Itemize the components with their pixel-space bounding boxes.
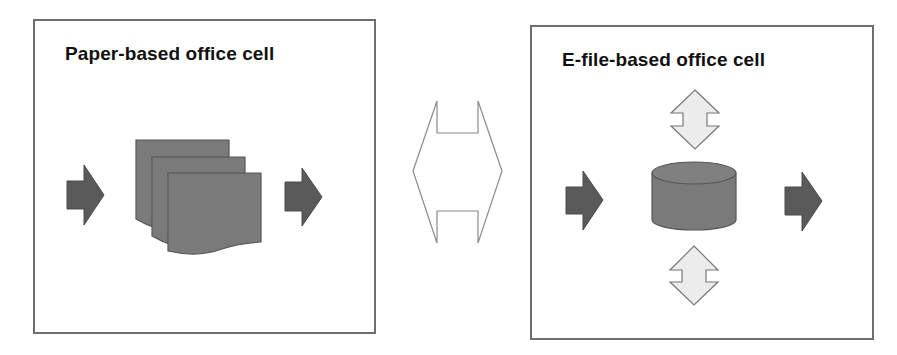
bidirectional-connector-arrow-icon [413, 101, 502, 243]
bottom-bidirectional-arrow-icon [670, 246, 718, 305]
stacked-documents-icon [136, 140, 261, 254]
left-output-arrow-icon [285, 168, 322, 226]
right-output-arrow-icon [785, 172, 822, 231]
left-input-arrow-icon [67, 165, 104, 225]
right-input-arrow-icon [566, 171, 603, 230]
diagram-shapes [0, 0, 897, 355]
database-cylinder-icon [652, 162, 736, 230]
top-bidirectional-arrow-icon [671, 90, 719, 149]
